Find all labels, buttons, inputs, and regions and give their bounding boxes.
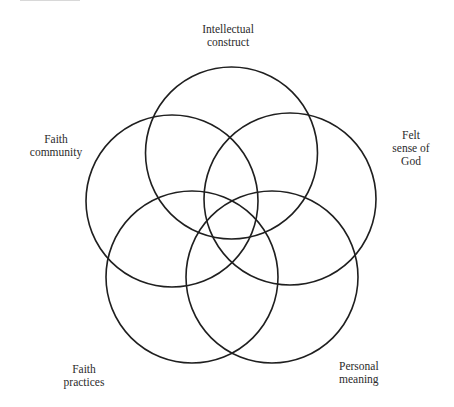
label-line: Felt [381,129,441,142]
label-intellectual-construct: Intellectual construct [188,23,268,49]
circle-intellectual-construct [146,67,318,239]
label-line: Faith [16,133,96,146]
label-line: meaning [339,373,409,386]
label-felt-sense-of-god: Felt sense of God [381,129,441,168]
label-line: construct [188,36,268,49]
label-line: Intellectual [188,23,268,36]
label-personal-meaning: Personal meaning [339,360,409,386]
label-faith-community: Faith community [16,133,96,159]
venn-diagram [0,0,454,407]
label-faith-practices: Faith practices [49,363,119,389]
label-line: community [16,146,96,159]
label-line: Personal [339,360,409,373]
label-line: God [381,155,441,168]
label-line: practices [49,376,119,389]
label-line: sense of [381,142,441,155]
label-line: Faith [49,363,119,376]
